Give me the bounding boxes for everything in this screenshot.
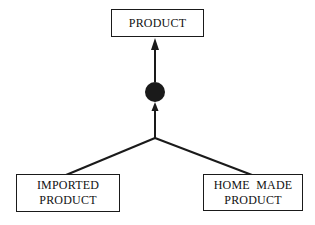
node-label-line-1: HOME MADE: [214, 178, 293, 193]
arrowhead-into-product-icon: [151, 38, 159, 50]
generalization-circle-icon: [145, 82, 165, 102]
node-label-line-2: PRODUCT: [224, 193, 281, 208]
edge-homemade-to-junction: [155, 138, 252, 175]
node-label: PRODUCT: [129, 16, 186, 31]
node-label-line-1: IMPORTED: [37, 178, 99, 193]
node-home-made-product: HOME MADE PRODUCT: [203, 174, 303, 211]
node-label-line-2: PRODUCT: [39, 193, 96, 208]
node-product: PRODUCT: [111, 9, 204, 37]
arrowhead-into-circle-icon: [152, 102, 159, 111]
edge-imported-to-junction: [66, 138, 155, 175]
node-imported-product: IMPORTED PRODUCT: [16, 174, 120, 212]
